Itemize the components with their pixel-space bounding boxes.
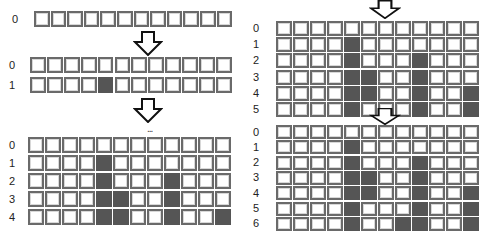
empty-cell bbox=[429, 37, 445, 52]
empty-cell bbox=[115, 57, 131, 73]
empty-cell bbox=[361, 140, 377, 154]
empty-cell bbox=[113, 155, 129, 171]
row-label: 0 bbox=[9, 140, 15, 151]
empty-cell bbox=[276, 53, 292, 68]
empty-cell bbox=[395, 53, 411, 68]
empty-cell bbox=[293, 53, 309, 68]
empty-cell bbox=[182, 77, 198, 93]
empty-cell bbox=[378, 202, 394, 216]
empty-cell bbox=[150, 11, 166, 27]
filled-cell bbox=[113, 191, 129, 207]
empty-cell bbox=[395, 202, 411, 216]
filled-cell bbox=[164, 191, 180, 207]
empty-cell bbox=[81, 57, 97, 73]
empty-cell bbox=[446, 186, 462, 200]
empty-cell bbox=[62, 209, 78, 225]
down-arrow-icon bbox=[133, 31, 163, 56]
row-label: 6 bbox=[253, 218, 259, 229]
empty-cell bbox=[412, 21, 428, 36]
filled-cell bbox=[361, 70, 377, 85]
empty-cell bbox=[81, 77, 97, 93]
empty-cell bbox=[130, 155, 146, 171]
empty-cell bbox=[198, 155, 214, 171]
empty-cell bbox=[181, 191, 197, 207]
row-label: 4 bbox=[253, 88, 259, 99]
row-label: 2 bbox=[253, 55, 259, 66]
empty-cell bbox=[412, 37, 428, 52]
empty-cell bbox=[395, 37, 411, 52]
empty-cell bbox=[276, 217, 292, 231]
row-label: 2 bbox=[9, 176, 15, 187]
down-arrow-icon bbox=[133, 98, 163, 123]
empty-cell bbox=[378, 21, 394, 36]
empty-cell bbox=[327, 156, 343, 170]
empty-cell bbox=[183, 11, 199, 27]
empty-cell bbox=[327, 86, 343, 101]
empty-cell bbox=[216, 57, 232, 73]
ellipsis-continuation: ... bbox=[147, 124, 152, 134]
empty-cell bbox=[148, 57, 164, 73]
empty-cell bbox=[446, 37, 462, 52]
empty-cell bbox=[64, 57, 80, 73]
empty-cell bbox=[344, 21, 360, 36]
empty-cell bbox=[84, 11, 100, 27]
empty-cell bbox=[429, 102, 445, 117]
empty-cell bbox=[378, 53, 394, 68]
empty-cell bbox=[164, 155, 180, 171]
empty-cell bbox=[446, 217, 462, 231]
filled-cell bbox=[412, 202, 428, 216]
empty-cell bbox=[199, 57, 215, 73]
empty-cell bbox=[361, 125, 377, 139]
filled-cell bbox=[361, 86, 377, 101]
empty-cell bbox=[446, 125, 462, 139]
filled-cell bbox=[344, 102, 360, 117]
empty-cell bbox=[47, 57, 63, 73]
row-label: 5 bbox=[253, 104, 259, 115]
empty-cell bbox=[28, 137, 44, 153]
empty-cell bbox=[463, 70, 479, 85]
empty-cell bbox=[30, 57, 46, 73]
empty-cell bbox=[181, 209, 197, 225]
empty-cell bbox=[134, 11, 150, 27]
empty-cell bbox=[310, 202, 326, 216]
empty-cell bbox=[165, 57, 181, 73]
empty-cell bbox=[117, 11, 133, 27]
empty-cell bbox=[310, 217, 326, 231]
empty-cell bbox=[310, 70, 326, 85]
empty-cell bbox=[45, 191, 61, 207]
empty-cell bbox=[327, 37, 343, 52]
empty-cell bbox=[463, 156, 479, 170]
empty-cell bbox=[147, 137, 163, 153]
empty-cell bbox=[167, 11, 183, 27]
empty-cell bbox=[378, 171, 394, 185]
empty-cell bbox=[45, 209, 61, 225]
empty-cell bbox=[28, 155, 44, 171]
empty-cell bbox=[113, 173, 129, 189]
empty-cell bbox=[310, 186, 326, 200]
empty-cell bbox=[412, 125, 428, 139]
empty-cell bbox=[198, 191, 214, 207]
filled-cell bbox=[96, 173, 112, 189]
empty-cell bbox=[215, 137, 231, 153]
empty-cell bbox=[131, 77, 147, 93]
empty-cell bbox=[293, 140, 309, 154]
empty-cell bbox=[293, 86, 309, 101]
empty-cell bbox=[45, 155, 61, 171]
empty-cell bbox=[130, 173, 146, 189]
row-label: 1 bbox=[9, 80, 15, 91]
empty-cell bbox=[276, 37, 292, 52]
empty-cell bbox=[446, 86, 462, 101]
filled-cell bbox=[412, 86, 428, 101]
row-label: 3 bbox=[9, 194, 15, 205]
empty-cell bbox=[446, 171, 462, 185]
filled-cell bbox=[412, 186, 428, 200]
empty-cell bbox=[310, 125, 326, 139]
empty-cell bbox=[429, 202, 445, 216]
row-label: 0 bbox=[12, 14, 18, 25]
empty-cell bbox=[395, 171, 411, 185]
empty-cell bbox=[200, 11, 216, 27]
filled-cell bbox=[96, 191, 112, 207]
empty-cell bbox=[378, 37, 394, 52]
empty-cell bbox=[28, 173, 44, 189]
empty-cell bbox=[293, 186, 309, 200]
